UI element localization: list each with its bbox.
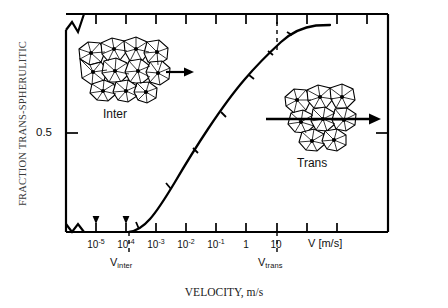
x-tick-mantissa: 10 [117, 239, 128, 250]
v-inter-subscript: inter [117, 261, 132, 270]
figure-canvas: FRACTION TRANS-SPHERULITIC 0.5 10-5 10-4… [0, 0, 448, 308]
figure-caption: VELOCITY, m/s [0, 286, 448, 298]
x-tick-exponent: -5 [98, 238, 104, 245]
x-tick-label-10: 10 [256, 238, 296, 250]
x-tick-exponent: -1 [218, 238, 224, 245]
x-tick-mantissa: 1 [243, 239, 249, 250]
x-tick-mantissa: 10 [177, 239, 188, 250]
x-tick-mantissa: 10 [147, 239, 158, 250]
x-tick-mantissa: 10 [87, 239, 98, 250]
v-trans-subscript: trans [265, 261, 282, 270]
x-axis-unit-label: V [m/s] [308, 237, 342, 249]
v-trans-label: Vtrans [258, 256, 283, 270]
inter-illustration-label: Inter [103, 107, 127, 121]
y-axis-break-icon [66, 14, 84, 32]
x-tick-exponent: -4 [128, 238, 134, 245]
y-tick-label-05: 0.5 [36, 126, 52, 138]
inter-illustration [79, 37, 194, 103]
v-inter-label: Vinter [110, 256, 132, 270]
x-axis-onset-markers [93, 216, 130, 224]
trans-illustration-label: Trans [297, 156, 327, 170]
x-axis-ticks-top [96, 14, 367, 24]
x-tick-mantissa: 10 [207, 239, 218, 250]
x-tick-exponent: -3 [158, 238, 164, 245]
y-axis-title: FRACTION TRANS-SPHERULITIC [17, 24, 28, 224]
chart-svg [0, 0, 448, 308]
x-axis-break-icon [66, 224, 84, 232]
x-tick-mantissa: 10 [270, 239, 281, 250]
trans-illustration [266, 84, 381, 151]
marker-arrow-1e5 [93, 216, 100, 224]
marker-arrow-1e4 [123, 216, 130, 224]
x-tick-exponent: -2 [188, 238, 194, 245]
